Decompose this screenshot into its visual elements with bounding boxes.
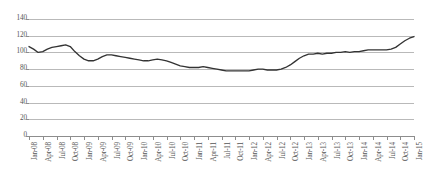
x-tick-label: Apr-14: [376, 142, 383, 162]
x-tick-label: Apr-09: [101, 142, 108, 162]
x-tick-mark: [43, 137, 44, 140]
x-tick-label: Apr-11: [211, 142, 218, 161]
x-tick-mark: [235, 137, 236, 140]
x-tick-mark: [414, 137, 415, 140]
x-tick-label: Jan-13: [307, 142, 314, 160]
x-tick-label: Oct-11: [238, 142, 245, 161]
x-tick-label: Jul-13: [335, 142, 342, 159]
x-tick-mark: [345, 137, 346, 140]
x-axis: Jan-08Apr-08Jul-08Oct-08Jan-09Apr-09Jul-…: [0, 0, 426, 181]
x-tick-mark: [249, 137, 250, 140]
x-tick-mark: [277, 137, 278, 140]
x-tick-label: Oct-09: [128, 142, 135, 161]
x-tick-label: Oct-12: [293, 142, 300, 161]
x-tick-mark: [304, 137, 305, 140]
x-tick-mark: [373, 137, 374, 140]
x-tick-label: Apr-12: [266, 142, 273, 162]
x-tick-mark: [125, 137, 126, 140]
x-tick-label: Jan-10: [142, 142, 149, 160]
x-tick-mark: [400, 137, 401, 140]
x-tick-label: Jan-11: [197, 142, 204, 160]
x-tick-label: Jan-14: [362, 142, 369, 160]
x-tick-mark: [29, 137, 30, 140]
x-tick-mark: [139, 137, 140, 140]
x-tick-label: Jul-09: [115, 142, 122, 159]
x-tick-mark: [318, 137, 319, 140]
x-tick-label: Jul-10: [170, 142, 177, 159]
x-tick-mark: [208, 137, 209, 140]
x-tick-mark: [167, 137, 168, 140]
x-tick-label: Jul-14: [390, 142, 397, 159]
line-chart: 020406080100120140 Jan-08Apr-08Jul-08Oct…: [0, 0, 426, 181]
x-tick-label: Apr-08: [46, 142, 53, 162]
x-tick-mark: [222, 137, 223, 140]
x-tick-label: Jan-15: [417, 142, 424, 160]
x-tick-mark: [387, 137, 388, 140]
x-tick-label: Jul-12: [280, 142, 287, 159]
x-tick-mark: [332, 137, 333, 140]
x-tick-label: Jan-08: [32, 142, 39, 160]
x-tick-mark: [70, 137, 71, 140]
x-tick-mark: [263, 137, 264, 140]
x-tick-mark: [290, 137, 291, 140]
x-tick-label: Jan-09: [87, 142, 94, 160]
x-tick-label: Apr-10: [156, 142, 163, 162]
x-tick-label: Apr-13: [321, 142, 328, 162]
x-tick-label: Jul-08: [60, 142, 67, 159]
x-tick-mark: [98, 137, 99, 140]
x-tick-mark: [359, 137, 360, 140]
x-tick-label: Jan-12: [252, 142, 259, 160]
x-tick-mark: [84, 137, 85, 140]
x-tick-label: Oct-08: [73, 142, 80, 161]
x-tick-mark: [194, 137, 195, 140]
x-tick-mark: [180, 137, 181, 140]
x-tick-label: Oct-14: [403, 142, 410, 161]
x-tick-label: Oct-13: [348, 142, 355, 161]
x-tick-label: Oct-10: [183, 142, 190, 161]
x-tick-mark: [57, 137, 58, 140]
x-tick-label: Jul-11: [225, 142, 232, 159]
x-tick-mark: [112, 137, 113, 140]
x-tick-mark: [153, 137, 154, 140]
